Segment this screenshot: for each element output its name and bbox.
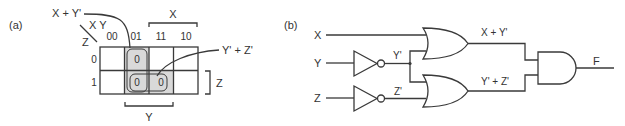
kmap-bracket-z (205, 71, 210, 94)
kmap-annotation-x-plus-ynot: X + Y' (52, 7, 81, 19)
or-gate-2 (423, 75, 468, 107)
wire-or1-out (468, 44, 538, 61)
kmap-bracket-y (125, 102, 173, 106)
not-gate-y (354, 51, 377, 76)
label-x-plus-ynot: X + Y' (481, 27, 508, 38)
panel-a-label: (a) (9, 19, 22, 31)
not-gate-z (354, 86, 377, 111)
kmap-cell-value: 0 (134, 77, 140, 88)
kmap-row-variable: Z (82, 36, 89, 48)
kmap-bracket-label-x: X (169, 8, 177, 20)
input-label-z: Z (314, 92, 321, 104)
panel-a-kmap: (a) X Y Z 00 01 11 10 0 1 0 0 0 X + Y' (9, 7, 253, 123)
input-label-y: Y (314, 57, 322, 69)
kmap-column-variables: X Y (89, 19, 107, 31)
kmap-bracket-label-z: Z (216, 77, 223, 89)
kmap-cell-value: 0 (134, 54, 140, 65)
wire-ynot-to-or2 (410, 64, 426, 83)
kmap-row-header: 1 (91, 77, 97, 88)
kmap-cell-value: 0 (158, 77, 164, 88)
kmap-bracket-label-y: Y (145, 111, 153, 123)
label-znot: Z' (394, 86, 402, 97)
and-gate (538, 52, 576, 84)
kmap-bracket-x (149, 23, 197, 27)
kmap-annotation-ynot-plus-znot: Y' + Z' (222, 44, 253, 56)
label-ynot: Y' (393, 50, 402, 61)
output-label-f: F (593, 55, 600, 67)
not-gate-z-bubble (378, 95, 385, 102)
kmap-col-header: 10 (180, 31, 192, 42)
diagram-canvas: (a) X Y Z 00 01 11 10 0 1 0 0 0 X + Y' (0, 0, 625, 126)
input-label-x: X (314, 29, 322, 41)
label-ynot-plus-znot: Y' + Z' (481, 76, 509, 87)
kmap-col-header: 11 (156, 31, 167, 42)
not-gate-y-bubble (378, 60, 385, 67)
kmap-col-header: 01 (130, 31, 142, 42)
panel-b-circuit: (b) X Y Z Y' Z' X + Y' Y' (284, 19, 614, 111)
kmap-row-header: 0 (91, 54, 97, 65)
or-gate-1 (423, 28, 468, 59)
panel-b-label: (b) (284, 19, 297, 31)
kmap-col-header: 00 (106, 31, 118, 42)
